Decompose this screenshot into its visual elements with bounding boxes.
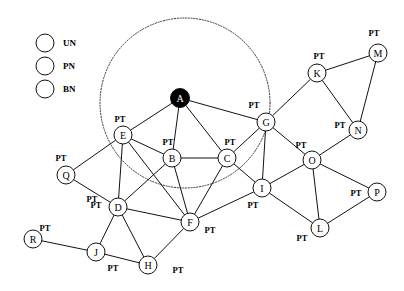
node-k[interactable]: K xyxy=(308,64,326,82)
node-label-f: F xyxy=(187,217,193,228)
edge-label-pt-1: PT xyxy=(163,137,174,147)
edge-l-p xyxy=(328,197,370,223)
edge-n-o xyxy=(320,135,351,155)
node-label-r: R xyxy=(30,234,37,245)
node-b[interactable]: B xyxy=(163,149,181,167)
node-m[interactable]: M xyxy=(369,44,387,62)
node-e[interactable]: E xyxy=(114,126,132,144)
legend-label-un: UN xyxy=(63,38,76,48)
node-layer: ABCDEFGHIJKLMNOPQR xyxy=(24,44,387,274)
node-d[interactable]: D xyxy=(109,198,127,216)
edge-label-pt-10: PT xyxy=(248,200,259,210)
node-r[interactable]: R xyxy=(24,230,42,248)
legend-layer: UNPNBN xyxy=(36,34,76,98)
edge-label-layer: PTPTPTPTPTPTPTPTPTPTPTPTPTPTPTPTPTPT xyxy=(40,28,380,275)
edge-k-n xyxy=(322,80,352,122)
node-label-k: K xyxy=(313,68,321,79)
edge-e-q xyxy=(73,140,115,170)
node-label-g: G xyxy=(262,117,269,128)
node-p[interactable]: P xyxy=(368,183,386,201)
edge-e-d xyxy=(119,144,123,198)
edge-label-pt-13: PT xyxy=(108,263,119,273)
node-l[interactable]: L xyxy=(311,219,329,237)
edge-label-pt-7: PT xyxy=(296,140,307,150)
edge-k-m xyxy=(326,56,370,70)
edge-a-e xyxy=(131,103,172,130)
node-label-h: H xyxy=(144,260,151,271)
legend-item-un: UN xyxy=(36,34,76,52)
legend-item-bn: BN xyxy=(36,80,76,98)
edge-f-h xyxy=(154,228,183,258)
edge-d-f xyxy=(127,209,181,220)
node-f[interactable]: F xyxy=(181,213,199,231)
edge-a-g xyxy=(189,101,257,120)
legend-label-pn: PN xyxy=(63,61,75,71)
edge-o-i xyxy=(270,164,304,183)
node-label-q: Q xyxy=(62,170,70,181)
edge-label-pt-16: PT xyxy=(40,223,51,233)
legend-item-pn: PN xyxy=(36,57,75,75)
legend-swatch-un xyxy=(36,34,54,52)
edge-label-pt-6: PT xyxy=(335,120,346,130)
node-label-m: M xyxy=(374,48,383,59)
edge-g-k xyxy=(272,79,310,116)
edge-m-n xyxy=(360,62,375,122)
edge-i-l xyxy=(269,193,312,223)
node-label-a: A xyxy=(176,93,184,104)
node-label-d: D xyxy=(114,202,121,213)
edge-j-h xyxy=(105,254,140,263)
edge-label-pt-9: PT xyxy=(297,233,308,243)
node-n[interactable]: N xyxy=(349,121,367,139)
node-label-j: J xyxy=(94,247,98,258)
edge-a-c xyxy=(186,105,222,150)
node-label-c: C xyxy=(224,153,231,164)
legend-swatch-bn xyxy=(36,80,54,98)
edge-label-pt-2: PT xyxy=(225,137,236,147)
edge-label-pt-17: PT xyxy=(87,194,98,204)
node-h[interactable]: H xyxy=(139,256,157,274)
edge-label-pt-8: PT xyxy=(351,188,362,198)
edge-d-j xyxy=(100,215,114,244)
node-g[interactable]: G xyxy=(257,113,275,131)
node-label-l: L xyxy=(317,223,323,234)
edge-c-g xyxy=(234,128,260,152)
network-graph-svg: PTPTPTPTPTPTPTPTPTPTPTPTPTPTPTPTPTPT ABC… xyxy=(0,0,404,291)
node-label-e: E xyxy=(120,130,126,141)
node-q[interactable]: Q xyxy=(57,166,75,184)
edge-label-pt-0: PT xyxy=(115,114,126,124)
node-label-n: N xyxy=(354,125,361,136)
edge-label-pt-3: PT xyxy=(249,100,260,110)
edge-label-pt-11: PT xyxy=(205,225,216,235)
edge-o-l xyxy=(313,169,319,219)
legend-swatch-pn xyxy=(36,57,54,75)
edge-c-i xyxy=(234,164,255,182)
edge-a-b xyxy=(173,107,179,149)
node-label-i: I xyxy=(260,183,263,194)
node-a[interactable]: A xyxy=(171,89,190,108)
edge-label-pt-12: PT xyxy=(173,265,184,275)
edge-label-pt-15: PT xyxy=(56,153,67,163)
edge-o-p xyxy=(320,164,369,188)
node-i[interactable]: I xyxy=(253,179,271,197)
edge-label-pt-4: PT xyxy=(314,51,325,61)
edge-g-i xyxy=(263,131,266,179)
edge-b-f xyxy=(174,167,187,214)
node-label-b: B xyxy=(169,153,176,164)
legend-label-bn: BN xyxy=(63,84,76,94)
node-label-p: P xyxy=(374,187,380,198)
network-diagram-canvas: PTPTPTPTPTPTPTPTPTPTPTPTPTPTPTPTPTPT ABC… xyxy=(0,0,404,291)
edge-d-h xyxy=(122,215,144,257)
edge-i-f xyxy=(198,192,254,218)
node-c[interactable]: C xyxy=(218,149,236,167)
node-o[interactable]: O xyxy=(303,151,321,169)
edge-label-pt-5: PT xyxy=(369,28,380,38)
node-label-o: O xyxy=(308,155,315,166)
edge-c-f xyxy=(195,166,223,214)
edge-j-r xyxy=(42,241,87,250)
node-j[interactable]: J xyxy=(87,243,105,261)
